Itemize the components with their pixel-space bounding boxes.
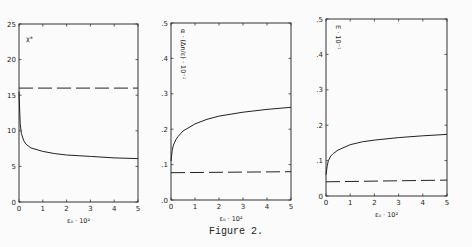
series-solid [19,92,138,159]
chart-panel-2: 012345.0.1.2.3.4.5ε₀ · 10²α · (Δn/ε) · 1… [161,20,293,224]
x-tick-label: 2 [372,199,376,207]
y-tick-label: 10 [7,127,16,135]
y-tick-label: .1 [316,157,323,165]
y-tick-label: 5 [12,163,16,171]
x-tick-label: 5 [445,199,449,207]
y-tick-label: 20 [7,56,16,64]
y-axis-label: χ* [26,35,34,43]
chart-panel-1: 0123450510152025ε₀ · 10²χ* [7,21,140,226]
y-tick-label: .0 [161,197,168,205]
y-tick-label: .2 [316,122,323,130]
figure-2-panels: 0123450510152025ε₀ · 10²χ*012345.0.1.2.3… [0,0,472,247]
x-tick-label: 5 [289,203,293,211]
x-tick-label: 4 [265,203,270,211]
y-tick-label: .2 [161,126,168,134]
x-tick-label: 1 [41,205,45,213]
x-tick-label: 1 [193,203,197,211]
x-axis-label: ε₀ · 10² [219,215,243,223]
x-tick-label: 4 [421,199,426,207]
x-tick-label: 0 [17,205,21,213]
y-tick-label: 25 [7,21,16,29]
plot-frame [19,24,138,202]
y-tick-label: 0 [12,199,16,207]
figure-caption: Figure 2. [0,226,472,237]
chart-panel-3: 0123450.1.2.3.4.5ε₀ · 10²E · 10⁻¹ [316,16,449,220]
x-axis-label: ε₀ · 10² [67,217,91,225]
x-tick-label: 3 [241,203,245,211]
y-axis-label: α · (Δn/ε) · 10⁻¹ [179,29,187,80]
x-axis-label: ε₀ · 10² [375,211,399,219]
y-tick-label: .4 [161,55,168,63]
y-axis-label: E · 10⁻¹ [334,25,342,50]
plot-frame [326,19,447,196]
y-tick-label: .1 [161,161,168,169]
x-tick-label: 3 [88,205,92,213]
y-tick-label: 0 [319,193,323,201]
x-tick-label: 0 [324,199,328,207]
series-dashed [171,172,291,173]
x-tick-label: 4 [112,205,117,213]
y-tick-label: .4 [316,51,323,59]
y-tick-label: .3 [316,86,323,94]
series-solid [171,107,291,161]
x-tick-label: 2 [217,203,221,211]
y-tick-label: 15 [7,92,16,100]
x-tick-label: 2 [64,205,68,213]
plot-frame [171,23,291,200]
y-tick-label: .3 [161,90,168,98]
x-tick-label: 1 [348,199,352,207]
x-tick-label: 3 [396,199,400,207]
y-tick-label: .5 [161,20,168,28]
series-solid [326,134,447,174]
x-tick-label: 0 [169,203,173,211]
x-tick-label: 5 [136,205,140,213]
y-tick-label: .5 [316,16,323,24]
series-dashed [326,180,447,182]
